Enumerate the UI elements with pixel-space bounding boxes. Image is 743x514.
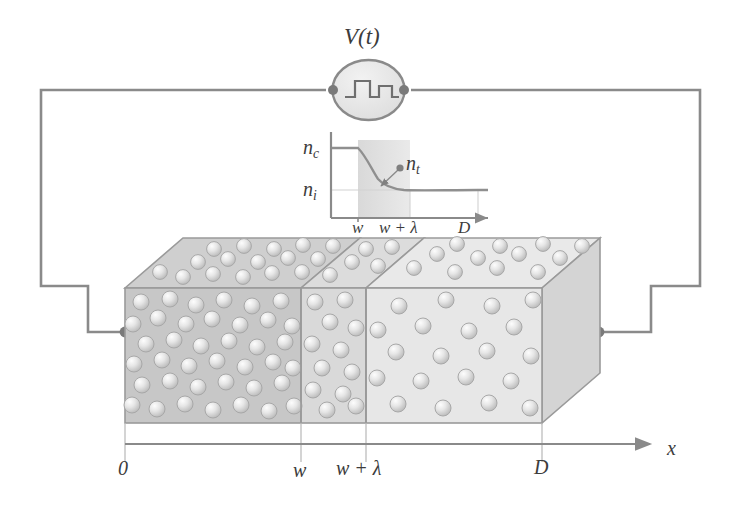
axis-tick-label-w: w xyxy=(293,459,306,482)
sample-box xyxy=(124,237,600,423)
voltage-source-label: V(t) xyxy=(344,24,380,50)
inset-xtick-w: w xyxy=(352,218,363,238)
voltage-source-symbol[interactable] xyxy=(328,60,409,120)
inset-xtick-D: D xyxy=(458,218,470,238)
axis-tick-label-D: D xyxy=(534,456,548,479)
inset-label-ni: ni xyxy=(303,178,317,204)
inset-xtick-wlambda: w + λ xyxy=(379,218,418,238)
inset-label-nt: nt xyxy=(406,152,420,178)
inset-diffusion-band xyxy=(358,140,410,218)
nt-marker-dot xyxy=(396,164,403,171)
axis-tick-label-0: 0 xyxy=(118,457,128,480)
diagram-vector-layer xyxy=(0,0,743,514)
figure-canvas: V(t) nc ni nt w w + λ D 0 w w + λ D x xyxy=(0,0,743,514)
source-terminal-left xyxy=(328,85,338,95)
source-terminal-right xyxy=(399,85,409,95)
axis-tick-label-wlambda: w + λ xyxy=(336,457,382,480)
source-circle xyxy=(333,60,405,120)
x-axis-group xyxy=(125,423,650,462)
inset-label-nc: nc xyxy=(303,136,319,162)
axis-name-x: x xyxy=(667,437,676,460)
